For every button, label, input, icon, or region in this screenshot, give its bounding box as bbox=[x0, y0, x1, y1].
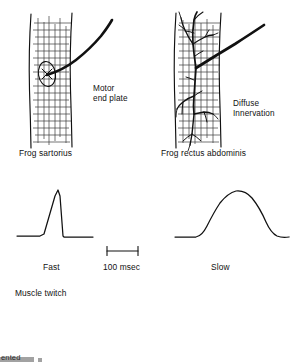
diagram-canvas bbox=[0, 0, 301, 362]
muscle-fiber-right-striations bbox=[178, 17, 220, 144]
group-label-muscle-twitch: Muscle twitch bbox=[15, 288, 67, 298]
trace-label-slow: Slow bbox=[211, 262, 230, 272]
motor-axon-left bbox=[47, 20, 112, 75]
panel-right-frog-rectus-abdominis bbox=[174, 12, 264, 151]
muscle-fiber-left-striations bbox=[33, 16, 71, 145]
twitch-trace-fast bbox=[17, 190, 93, 237]
nerve-branches-right bbox=[176, 12, 218, 151]
caption-frog-rectus-abdominis: Frog rectus abdominis bbox=[161, 148, 246, 158]
annotation-diffuse-innervation: Diffuse Innervation bbox=[233, 99, 275, 119]
scale-bar-label: 100 msec bbox=[103, 262, 140, 272]
figure-muscle-innervation-and-twitch: Motor end plate Diffuse Innervation Frog… bbox=[0, 0, 301, 362]
trace-label-fast: Fast bbox=[43, 262, 60, 272]
caption-frog-sartorius: Frog sartorius bbox=[19, 148, 72, 158]
twitch-trace-slow bbox=[175, 191, 289, 237]
panel-left-frog-sartorius bbox=[29, 13, 112, 148]
scale-bar-100-msec bbox=[107, 247, 138, 256]
motor-axon-right-main bbox=[196, 25, 264, 68]
footer-cut-text: ented bbox=[1, 353, 21, 362]
annotation-motor-end-plate: Motor end plate bbox=[93, 84, 128, 104]
